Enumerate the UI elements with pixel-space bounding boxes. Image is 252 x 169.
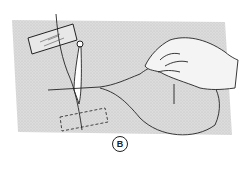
figure-label-text: B (117, 140, 124, 149)
figure-label: B (112, 136, 128, 152)
